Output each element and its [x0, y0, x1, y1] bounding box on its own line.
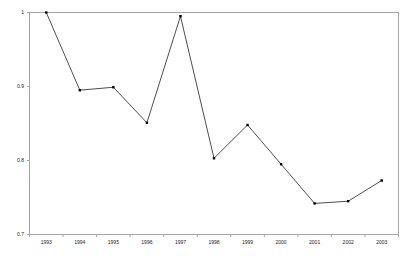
y-tick-label: 0.9 — [2, 84, 24, 89]
data-point-marker — [112, 86, 114, 88]
x-tick-label: 1997 — [165, 240, 195, 245]
x-tick-label: 2001 — [300, 240, 330, 245]
data-point-marker — [280, 163, 282, 165]
x-tick-label: 1993 — [31, 240, 61, 245]
y-tick-label: 0.8 — [2, 158, 24, 163]
data-point-marker — [381, 179, 383, 181]
x-tick-label: 1995 — [98, 240, 128, 245]
x-tick-label: 2002 — [333, 240, 363, 245]
x-tick-label: 1999 — [233, 240, 263, 245]
data-point-markers — [45, 11, 383, 204]
data-point-marker — [179, 15, 181, 17]
y-tick-label: 0.7 — [2, 232, 24, 237]
y-axis-ticks — [27, 13, 30, 235]
data-point-marker — [79, 89, 81, 91]
data-point-marker — [246, 124, 248, 126]
data-point-marker — [146, 122, 148, 124]
x-tick-label: 2003 — [367, 240, 397, 245]
x-tick-label: 1996 — [132, 240, 162, 245]
x-axis-ticks — [30, 235, 399, 238]
y-tick-label: 1 — [2, 10, 24, 15]
x-tick-label: 1998 — [199, 240, 229, 245]
data-point-marker — [213, 157, 215, 159]
plot-svg — [0, 0, 412, 260]
data-point-marker — [347, 200, 349, 202]
data-point-marker — [313, 202, 315, 204]
line-chart: 0.70.80.91 19931994199519961997199819992… — [0, 0, 412, 260]
x-tick-label: 2000 — [266, 240, 296, 245]
x-tick-label: 1994 — [65, 240, 95, 245]
data-point-marker — [45, 11, 47, 13]
data-series-line — [46, 13, 381, 204]
